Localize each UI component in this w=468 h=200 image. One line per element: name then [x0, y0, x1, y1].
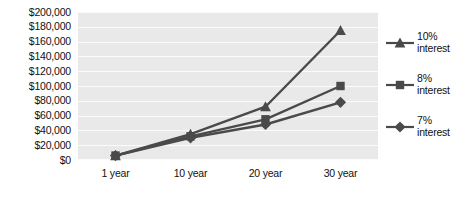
diamond-marker — [394, 121, 405, 132]
legend-diamond-icon — [386, 120, 414, 134]
plot-area — [78, 12, 378, 160]
legend-triangle-icon — [386, 36, 414, 50]
series-line — [116, 31, 341, 156]
legend-label-rate: 7% — [417, 115, 468, 127]
legend-label-term: interest — [417, 127, 468, 139]
legend-label: 7%interest — [417, 115, 468, 138]
y-axis-tick-label: $180,000 — [29, 21, 71, 32]
x-axis: 1 year10 year20 year30 year — [78, 166, 378, 182]
legend-item[interactable]: 10%interest — [386, 34, 468, 60]
legend-label: 10%interest — [417, 31, 468, 54]
series-layer — [78, 12, 378, 160]
diamond-marker — [335, 97, 346, 108]
x-axis-tick-label: 10 year — [174, 166, 208, 180]
y-axis-tick-label: $120,000 — [29, 66, 71, 77]
series-triangle — [110, 25, 346, 160]
legend-label-term: interest — [417, 43, 468, 55]
legend-label-rate: 10% — [417, 31, 468, 43]
legend-label-term: interest — [417, 85, 468, 97]
square-marker — [396, 81, 404, 89]
y-axis-tick-label: $140,000 — [29, 51, 71, 62]
legend-item[interactable]: 8%interest — [386, 76, 468, 102]
legend-label-rate: 8% — [417, 73, 468, 85]
legend-square-icon — [386, 78, 414, 92]
chart-legend: 10%interest8%interest7%interest — [386, 34, 468, 144]
y-axis-tick-label: $160,000 — [29, 36, 71, 47]
y-axis-tick-label: $40,000 — [34, 125, 71, 136]
y-axis-tick-label: $60,000 — [34, 110, 71, 121]
triangle-marker — [335, 25, 346, 35]
y-axis: $200,000$180,000$160,000$140,000$120,000… — [0, 7, 74, 160]
y-axis-tick-label: $100,000 — [29, 81, 71, 92]
y-axis-tick-label: $20,000 — [34, 140, 71, 151]
y-axis-tick-label: $0 — [60, 155, 71, 166]
y-axis-tick-label: $200,000 — [29, 7, 71, 18]
legend-item[interactable]: 7%interest — [386, 118, 468, 144]
x-axis-tick-label: 20 year — [249, 166, 283, 180]
y-axis-tick-label: $80,000 — [34, 95, 71, 106]
square-marker — [336, 82, 344, 90]
line-chart: $200,000$180,000$160,000$140,000$120,000… — [0, 0, 468, 200]
x-axis-tick-label: 30 year — [324, 166, 358, 180]
legend-label: 8%interest — [417, 73, 468, 96]
x-axis-tick-label: 1 year — [102, 166, 130, 180]
